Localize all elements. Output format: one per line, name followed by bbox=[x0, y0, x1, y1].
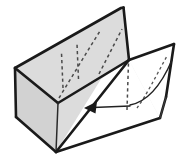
left-cap-front-edge bbox=[15, 68, 16, 117]
origami-diagram-svg bbox=[0, 0, 184, 163]
origami-diagram-root bbox=[0, 0, 184, 163]
